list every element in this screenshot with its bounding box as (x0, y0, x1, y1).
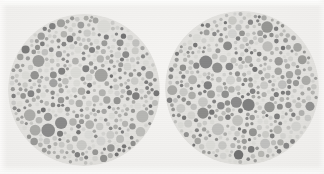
paper-top-highlight (0, 0, 324, 7)
plate-right-dots (165, 11, 319, 165)
ishihara-plate-left (8, 14, 160, 166)
plate-left-dots (8, 14, 160, 166)
ishihara-plate-pair-image (0, 0, 324, 174)
ishihara-plate-right (165, 11, 319, 165)
paper-bottom-highlight (0, 165, 324, 174)
paper-left-highlight (0, 0, 7, 174)
